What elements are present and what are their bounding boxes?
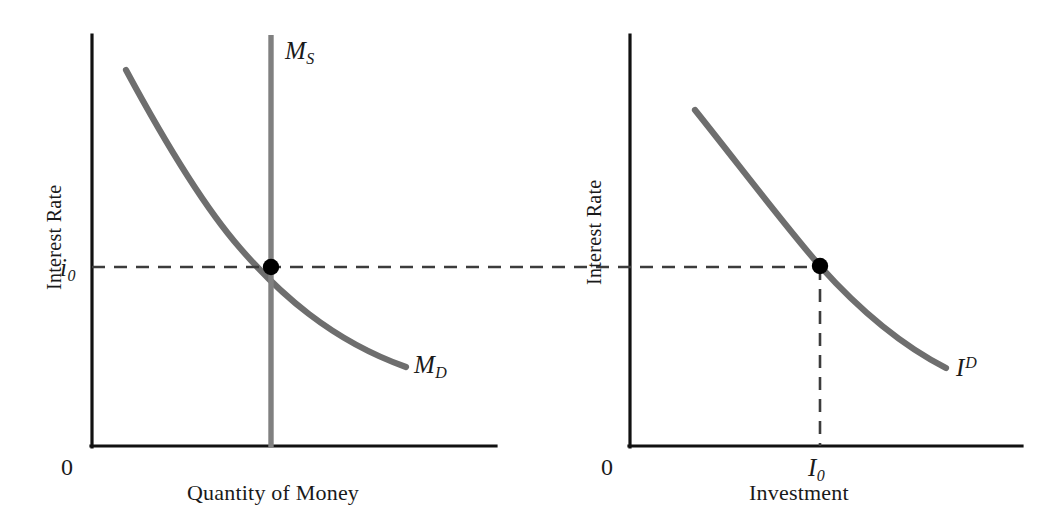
right-y-axis-title: Interest Rate bbox=[584, 179, 604, 285]
money-demand-label: MD bbox=[414, 352, 447, 381]
money-supply-subscript: S bbox=[306, 50, 315, 67]
right-x-axis-title: Investment bbox=[749, 482, 849, 504]
investment-demand-label: ID bbox=[956, 355, 977, 380]
equilibrium-rate-subscript: 0 bbox=[67, 267, 76, 284]
equilibrium-rate-label: i0 bbox=[60, 255, 75, 284]
left-equilibrium-point bbox=[263, 259, 279, 275]
money-demand-subscript: D bbox=[435, 364, 447, 381]
right-equilibrium-point bbox=[812, 258, 828, 274]
investment-demand-curve bbox=[695, 110, 946, 368]
money-supply-label: MS bbox=[285, 38, 314, 67]
right-origin-label: 0 bbox=[601, 455, 613, 479]
economics-diagram bbox=[0, 0, 1058, 525]
figure-canvas: Interest Rate 0 i0 MS MD Quantity of Mon… bbox=[0, 0, 1058, 525]
money-demand-curve bbox=[126, 70, 406, 367]
money-demand-base: M bbox=[414, 351, 435, 378]
investment-demand-superscript: D bbox=[964, 354, 977, 371]
equilibrium-rate-base: i bbox=[60, 254, 67, 281]
money-supply-base: M bbox=[285, 37, 306, 64]
left-x-axis-title: Quantity of Money bbox=[187, 482, 359, 504]
left-origin-label: 0 bbox=[61, 455, 73, 479]
left-panel-money-market bbox=[91, 35, 530, 447]
